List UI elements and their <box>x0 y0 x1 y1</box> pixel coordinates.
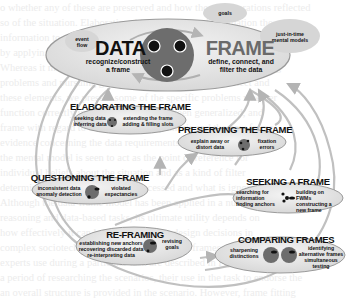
data-subtitle: recognize/constructa frame <box>82 58 154 74</box>
comparing-title: COMPARING FRAMES <box>238 234 328 245</box>
questioning-left: inconsistent dataanomaly detection <box>33 185 85 197</box>
goals-label: goals <box>210 10 240 16</box>
seeking-left: searching forinformationfinding anchors <box>236 189 280 207</box>
seeking-title: SEEKING A FRAME <box>240 176 336 187</box>
comparing-left: sharpeningdistinctions <box>226 247 262 259</box>
elaborating-left: seeking datainferring data <box>72 115 108 127</box>
questioning-right: violatedexpectancies <box>101 185 141 197</box>
preserving-title: PRESERVING THE FRAME <box>178 124 288 135</box>
comparing-right: identifyingalternative framessimultaneou… <box>298 245 344 269</box>
event-flow-label: eventflow <box>70 36 94 48</box>
preserving-right: fixationerrors <box>252 138 282 150</box>
reframing-right: revisinggoals <box>158 238 186 250</box>
frame-title: FRAME <box>205 37 275 60</box>
seeking-right: building on FWMsconstructing anew frame <box>296 189 340 213</box>
frame-subtitle: define, connect, andfilter the data <box>200 58 282 74</box>
data-title: DATA <box>95 37 145 60</box>
questioning-title: QUESTIONING THE FRAME <box>28 172 152 183</box>
reframing-left: establishing new anchorsrecovering disca… <box>78 240 144 258</box>
preserving-left: explain away ordistort data <box>186 138 234 150</box>
elaborating-title: ELABORATING THE FRAME <box>70 101 190 112</box>
elaborating-right: extending the frameadding & filling slot… <box>118 115 178 127</box>
